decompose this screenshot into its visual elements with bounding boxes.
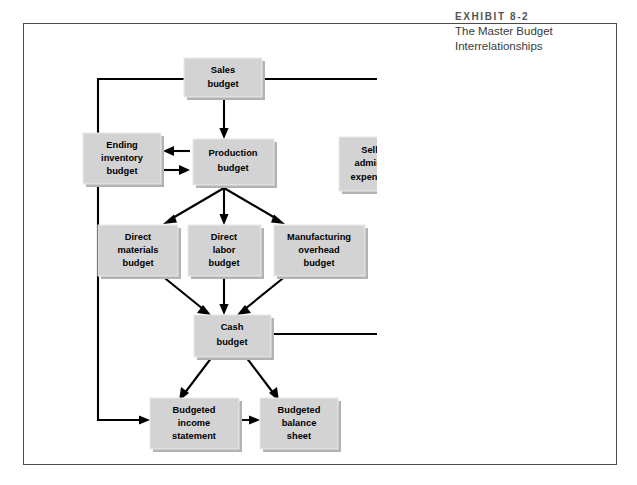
- node-direct-materials-budget-line-0: Direct: [125, 232, 151, 242]
- node-sales-budget[interactable]: Sales budget: [184, 58, 265, 100]
- arrowhead-production-top: [219, 128, 228, 139]
- arrowhead-production-left: [179, 165, 190, 175]
- node-cash-budget-line-1: budget: [217, 337, 248, 347]
- arrowhead-balance-sheet-left: [249, 415, 260, 424]
- edge-production-to-mfg-overhead: [224, 188, 277, 219]
- exhibit-label: EXHIBIT 8-2: [455, 10, 605, 24]
- edge-mfg-overhead-to-cash: [245, 275, 287, 309]
- node-ending-inventory-budget-line-0: Ending: [106, 140, 138, 150]
- node-selling-administrative-expense-budget-line-0: Selling and: [361, 145, 377, 155]
- node-direct-labor-budget-line-1: labor: [213, 245, 236, 255]
- node-ending-inventory-budget[interactable]: Ending inventory budget: [83, 133, 164, 187]
- node-budgeted-balance-sheet-line-0: Budgeted: [278, 405, 321, 415]
- node-ending-inventory-budget-line-1: inventory: [101, 153, 144, 163]
- node-production-budget[interactable]: Production budget: [193, 139, 277, 188]
- node-budgeted-balance-sheet-line-2: sheet: [287, 431, 311, 441]
- node-budgeted-income-statement[interactable]: Budgeted income statement: [150, 398, 242, 452]
- arrowhead-direct-labor-top: [219, 214, 228, 225]
- master-budget-flowchart: Sales budget Ending inventory budget Pro…: [53, 53, 377, 452]
- node-selling-administrative-expense-budget-line-1: administrative: [354, 158, 377, 168]
- node-production-budget-line-0: Production: [208, 148, 257, 158]
- node-manufacturing-overhead-budget-line-2: budget: [304, 258, 335, 268]
- node-cash-budget-face: [194, 315, 271, 357]
- node-sales-budget-line-0: Sales: [211, 65, 235, 75]
- node-manufacturing-overhead-budget-line-0: Manufacturing: [287, 232, 351, 242]
- flowchart-svg: Sales budget Ending inventory budget Pro…: [53, 53, 377, 452]
- node-ending-inventory-budget-line-2: budget: [107, 166, 138, 176]
- node-budgeted-balance-sheet-line-1: balance: [282, 418, 317, 428]
- node-budgeted-income-statement-line-1: income: [178, 418, 211, 428]
- arrowhead-cash-from-labor: [219, 304, 228, 315]
- exhibit-frame: Sales budget Ending inventory budget Pro…: [23, 23, 617, 465]
- node-selling-administrative-expense-budget[interactable]: Selling and administrative expense budge…: [339, 137, 377, 194]
- edge-sales-to-selling-admin: [265, 79, 377, 130]
- node-direct-materials-budget-line-2: budget: [123, 258, 154, 268]
- arrowhead-income-statement-left: [139, 415, 150, 424]
- edge-production-to-direct-materials: [171, 188, 224, 219]
- node-direct-labor-budget[interactable]: Direct labor budget: [188, 225, 264, 279]
- node-manufacturing-overhead-budget-line-1: overhead: [298, 245, 340, 255]
- node-production-budget-line-1: budget: [218, 163, 249, 173]
- node-sales-budget-line-1: budget: [208, 79, 239, 89]
- node-direct-materials-budget-line-1: materials: [118, 245, 159, 255]
- arrowhead-ending-inventory-right: [163, 146, 174, 156]
- node-cash-budget-line-0: Cash: [221, 322, 244, 332]
- node-manufacturing-overhead-budget[interactable]: Manufacturing overhead budget: [274, 225, 368, 279]
- node-direct-labor-budget-line-0: Direct: [211, 232, 237, 242]
- node-direct-labor-budget-line-2: budget: [209, 258, 240, 268]
- exhibit-caption: EXHIBIT 8-2 The Master Budget Interrelat…: [455, 10, 605, 53]
- node-selling-administrative-expense-budget-line-2: expense budget: [351, 172, 377, 182]
- node-production-budget-face: [193, 139, 274, 185]
- edge-direct-materials-to-cash: [161, 275, 203, 309]
- node-budgeted-income-statement-line-0: Budgeted: [173, 405, 216, 415]
- node-direct-materials-budget[interactable]: Direct materials budget: [98, 225, 181, 279]
- node-cash-budget[interactable]: Cash budget: [194, 315, 274, 360]
- exhibit-title-line-2: Interrelationships: [455, 39, 605, 54]
- node-budgeted-balance-sheet[interactable]: Budgeted balance sheet: [260, 398, 341, 452]
- node-budgeted-income-statement-line-2: statement: [172, 431, 216, 441]
- node-sales-budget-face: [184, 58, 262, 97]
- exhibit-title-line-1: The Master Budget: [455, 24, 605, 39]
